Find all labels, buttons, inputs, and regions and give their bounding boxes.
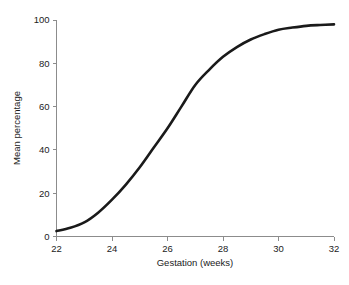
y-tick-label: 40 <box>39 144 50 155</box>
x-tick-label: 30 <box>273 243 284 254</box>
x-tick-label: 24 <box>107 243 118 254</box>
y-tick-label: 100 <box>34 14 50 25</box>
y-tick-label: 0 <box>44 231 49 242</box>
x-tick-label: 22 <box>51 243 62 254</box>
cropped-caption-text <box>0 277 349 285</box>
y-tick-label: 60 <box>39 101 50 112</box>
x-tick-label: 26 <box>162 243 173 254</box>
y-tick-label: 80 <box>39 58 50 69</box>
x-axis-title: Gestation (weeks) <box>157 257 234 268</box>
y-tick-label: 20 <box>39 188 50 199</box>
line-chart: 020406080100 222426283032 Mean percentag… <box>0 0 349 285</box>
figure-container: 020406080100 222426283032 Mean percentag… <box>0 0 349 285</box>
y-axis-title: Mean percentage <box>11 91 22 165</box>
x-tick-label: 28 <box>218 243 229 254</box>
x-tick-label: 32 <box>329 243 340 254</box>
